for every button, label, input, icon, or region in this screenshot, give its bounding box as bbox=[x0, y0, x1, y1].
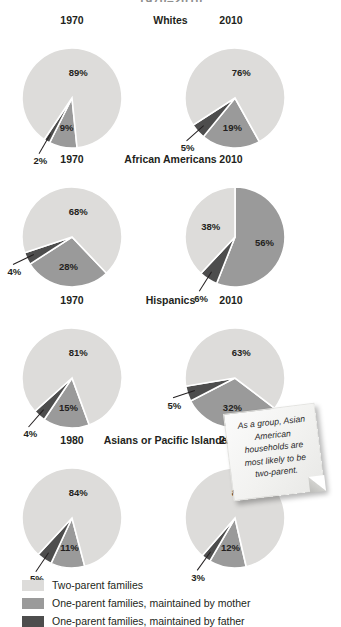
year-label-right: 2010 bbox=[196, 294, 266, 306]
pie-slice-label-two-parent: 89% bbox=[65, 67, 91, 78]
pie-slice-label-mother: 19% bbox=[219, 122, 245, 133]
sticky-note-fold-corner bbox=[308, 475, 326, 493]
pie-slice-label-two-parent: 68% bbox=[65, 206, 91, 217]
legend-label: One-parent families, maintained by mothe… bbox=[52, 597, 250, 609]
pie-slice-label-father: 5% bbox=[162, 400, 186, 411]
legend-item-mother: One-parent families, maintained by mothe… bbox=[22, 596, 322, 610]
pie-slice-label-two-parent: 63% bbox=[228, 347, 254, 358]
group-header: 1970 African Americans 2010 bbox=[0, 153, 341, 185]
year-label-left: 1970 bbox=[37, 294, 107, 306]
legend-swatch-father bbox=[22, 616, 44, 627]
sticky-note: As a group, Asian American households ar… bbox=[223, 403, 325, 502]
legend-swatch-two-parent bbox=[22, 580, 44, 591]
group-header: 1970 Hispanics 2010 bbox=[0, 294, 341, 326]
pie-pair: 89%9%2% 76%19%5% bbox=[0, 46, 341, 154]
pie-chart-whites-1970: 89%9%2% bbox=[20, 46, 124, 150]
pie-chart-hispanics-1970: 81%15%4% bbox=[20, 326, 124, 430]
group-header: 1970 Whites 2010 bbox=[0, 14, 341, 46]
pie-slice-label-mother: 15% bbox=[55, 402, 81, 413]
pie-slice-label-mother: 12% bbox=[218, 542, 244, 553]
legend-item-two-parent: Two-parent families bbox=[22, 578, 322, 592]
pie-slice-label-two-parent: 84% bbox=[65, 487, 91, 498]
year-label-left: 1970 bbox=[37, 153, 107, 165]
sticky-note-text: As a group, Asian American households ar… bbox=[231, 412, 316, 483]
group-row-african-americans: 1970 African Americans 2010 68%28%4% 38%… bbox=[0, 153, 341, 293]
legend-label: One-parent families, maintained by fathe… bbox=[52, 615, 245, 627]
pie-slice-label-father: 5% bbox=[176, 142, 200, 153]
infographic-page: 1970–2010 1970 Whites 2010 89%9%2% 76%19… bbox=[0, 0, 341, 627]
year-label-left: 1980 bbox=[37, 434, 107, 446]
pie-slice-label-mother: 28% bbox=[55, 261, 81, 272]
legend: Two-parent families One-parent families,… bbox=[22, 578, 322, 627]
legend-swatch-mother bbox=[22, 598, 44, 609]
chart-title: 1970–2010 bbox=[0, 0, 341, 2]
pie-chart-asians-1980: 84%11%5% bbox=[20, 466, 124, 570]
pie-slice-label-mother: 9% bbox=[54, 122, 80, 133]
pie-chart-whites-2010: 76%19%5% bbox=[183, 46, 287, 150]
pie-chart-african-americans-2010: 38%56%6% bbox=[183, 185, 287, 289]
legend-item-father: One-parent families, maintained by fathe… bbox=[22, 614, 322, 627]
pie-slice-label-father: 4% bbox=[2, 266, 26, 277]
pie-slice-label-mother: 56% bbox=[251, 237, 277, 248]
legend-label: Two-parent families bbox=[52, 579, 143, 591]
pie-slice-label-two-parent: 38% bbox=[198, 221, 224, 232]
year-label-left: 1970 bbox=[37, 14, 107, 26]
year-label-right: 2010 bbox=[196, 153, 266, 165]
pie-slice-label-two-parent: 76% bbox=[228, 67, 254, 78]
pie-chart-african-americans-1970: 68%28%4% bbox=[20, 185, 124, 289]
year-label-right: 2010 bbox=[196, 14, 266, 26]
pie-slice-label-two-parent: 81% bbox=[65, 347, 91, 358]
pie-pair: 68%28%4% 38%56%6% bbox=[0, 185, 341, 293]
group-row-whites: 1970 Whites 2010 89%9%2% 76%19%5% bbox=[0, 14, 341, 154]
pie-slice-label-mother: 11% bbox=[56, 542, 82, 553]
